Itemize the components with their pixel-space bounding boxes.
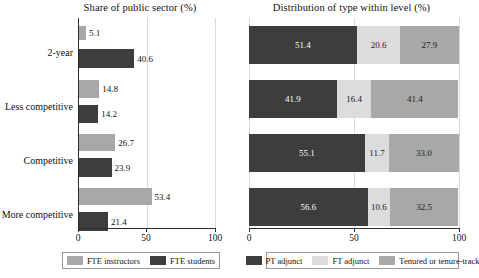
legend-item-pt-adjunct[interactable]: PT adjunct bbox=[246, 256, 303, 266]
bar-value-students-competitive: 23.9 bbox=[112, 163, 131, 173]
right-x-tick-label-50: 50 bbox=[349, 233, 359, 243]
bar-instructors-more-competitive: 53.4 bbox=[79, 188, 152, 205]
left-plot-area: 2-year 5.1 40.6 Less competitive 14.8 14… bbox=[78, 18, 215, 228]
segment-ft-adjunct-more-competitive: 10.6 bbox=[368, 188, 390, 226]
bar-instructors-less-competitive: 14.8 bbox=[79, 80, 99, 98]
right-x-tick-50 bbox=[354, 228, 355, 232]
legend-item-tenured-or-tenure-track[interactable]: Tenured or tenure-track bbox=[379, 256, 479, 266]
right-gridline-100 bbox=[459, 18, 460, 228]
segment-pt-adjunct-less-competitive: 41.9 bbox=[249, 80, 337, 118]
legend-item-ft-adjunct[interactable]: FT adjunct bbox=[312, 256, 369, 266]
left-gridline-100 bbox=[215, 18, 216, 228]
segment-tenured-more-competitive: 32.5 bbox=[390, 188, 458, 226]
bar-value-instructors-less-competitive: 14.8 bbox=[99, 84, 118, 94]
left-x-tick-100 bbox=[215, 228, 216, 232]
right-x-tick-100 bbox=[459, 228, 460, 232]
legend-label-ft-adjunct: FT adjunct bbox=[332, 256, 369, 266]
right-chart-title: Distribution of type within level (%) bbox=[232, 2, 465, 13]
bar-students-less-competitive: 14.2 bbox=[79, 105, 98, 123]
right-x-tick-label-100: 100 bbox=[452, 233, 466, 243]
bar-value-students-2-year: 40.6 bbox=[134, 54, 153, 64]
legend-swatch-fte-instructors-icon bbox=[67, 256, 83, 265]
bar-value-instructors-competitive: 26.7 bbox=[115, 138, 134, 148]
stacked-bar-competitive: 55.1 11.7 33.0 bbox=[249, 134, 459, 172]
bar-group-less-competitive: Less competitive 14.8 14.2 bbox=[79, 80, 215, 132]
left-chart-title: Share of public sector (%) bbox=[0, 2, 232, 13]
segment-pt-adjunct-competitive: 55.1 bbox=[249, 134, 365, 172]
bar-value-instructors-2-year: 5.1 bbox=[86, 28, 100, 38]
left-category-label-0: 2-year bbox=[47, 47, 79, 58]
legend-label-tenured-or-tenure-track: Tenured or tenure-track bbox=[399, 256, 479, 266]
panel-distribution-of-type: Distribution of type within level (%) 51… bbox=[232, 0, 465, 278]
left-legend: FTE instructors FTE students bbox=[62, 252, 220, 269]
bar-students-2-year: 40.6 bbox=[79, 49, 134, 68]
bar-value-instructors-more-competitive: 53.4 bbox=[152, 192, 171, 202]
bar-instructors-2-year: 5.1 bbox=[79, 26, 86, 40]
segment-pt-adjunct-more-competitive: 56.6 bbox=[249, 188, 368, 226]
left-x-tick-label-100: 100 bbox=[208, 233, 222, 243]
left-category-label-2: Competitive bbox=[24, 155, 79, 166]
stacked-bar-less-competitive: 41.9 16.4 41.4 bbox=[249, 80, 459, 118]
legend-swatch-ft-adjunct-icon bbox=[312, 256, 328, 265]
segment-tenured-2-year: 27.9 bbox=[400, 26, 459, 64]
segment-ft-adjunct-less-competitive: 16.4 bbox=[337, 80, 371, 118]
segment-ft-adjunct-competitive: 11.7 bbox=[365, 134, 390, 172]
bar-group-2-year: 2-year 5.1 40.6 bbox=[79, 26, 215, 78]
right-x-tick-0 bbox=[249, 228, 250, 232]
legend-item-fte-instructors[interactable]: FTE instructors bbox=[67, 256, 140, 266]
left-x-tick-label-50: 50 bbox=[141, 233, 151, 243]
legend-swatch-fte-students-icon bbox=[150, 256, 166, 265]
legend-label-fte-students: FTE students bbox=[170, 256, 215, 266]
right-legend: PT adjunct FT adjunct Tenured or tenure-… bbox=[266, 252, 459, 269]
right-x-tick-label-0: 0 bbox=[247, 233, 252, 243]
left-category-label-3: More competitive bbox=[2, 209, 79, 220]
legend-item-fte-students[interactable]: FTE students bbox=[150, 256, 215, 266]
stacked-bar-2-year: 51.4 20.6 27.9 bbox=[249, 26, 459, 64]
legend-label-fte-instructors: FTE instructors bbox=[87, 256, 140, 266]
legend-label-pt-adjunct: PT adjunct bbox=[266, 256, 303, 266]
segment-pt-adjunct-2-year: 51.4 bbox=[249, 26, 357, 64]
bar-students-competitive: 23.9 bbox=[79, 158, 112, 177]
left-x-tick-50 bbox=[146, 228, 147, 232]
legend-swatch-tenured-icon bbox=[379, 256, 395, 265]
bar-value-students-less-competitive: 14.2 bbox=[98, 109, 117, 119]
left-x-tick-0 bbox=[78, 228, 79, 232]
legend-swatch-pt-adjunct-icon bbox=[246, 256, 262, 265]
segment-tenured-competitive: 33.0 bbox=[389, 134, 458, 172]
left-x-tick-label-0: 0 bbox=[76, 233, 81, 243]
segment-ft-adjunct-2-year: 20.6 bbox=[357, 26, 400, 64]
bar-instructors-competitive: 26.7 bbox=[79, 134, 115, 151]
left-category-label-1: Less competitive bbox=[5, 101, 79, 112]
panel-share-of-public-sector: Share of public sector (%) 2-year 5.1 40… bbox=[0, 0, 232, 278]
right-plot-area: 51.4 20.6 27.9 41.9 16.4 41.4 55.1 11.7 … bbox=[249, 18, 459, 228]
segment-tenured-less-competitive: 41.4 bbox=[371, 80, 458, 118]
stacked-bar-more-competitive: 56.6 10.6 32.5 bbox=[249, 188, 459, 226]
bar-group-competitive: Competitive 26.7 23.9 bbox=[79, 134, 215, 186]
bar-value-students-more-competitive: 21.4 bbox=[108, 217, 127, 227]
